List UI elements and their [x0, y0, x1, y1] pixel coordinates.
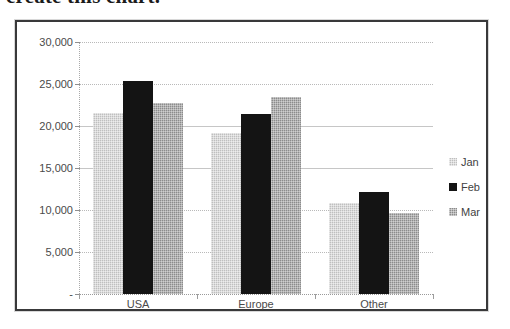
x-axis-label-europe: Europe — [238, 298, 273, 310]
x-axis-tick-mark — [433, 294, 434, 299]
bar-other-mar[interactable] — [389, 213, 419, 294]
y-axis-tick-label: 20,000 — [19, 120, 73, 132]
bar-other-jan[interactable] — [329, 203, 359, 294]
y-axis-tick-label: 30,000 — [19, 36, 73, 48]
bar-group-europe — [211, 42, 301, 294]
x-axis-category-labels: USAEuropeOther — [79, 298, 433, 320]
x-axis-label-usa: USA — [127, 298, 150, 310]
bar-usa-jan[interactable] — [93, 113, 123, 294]
bar-group-other — [329, 42, 419, 294]
plot-area — [79, 42, 433, 294]
clipped-caption-strip: create this chart. — [0, 0, 510, 14]
bar-group-usa — [93, 42, 183, 294]
x-axis-label-other: Other — [360, 298, 388, 310]
legend-item-jan[interactable]: Jan — [449, 149, 497, 174]
x-axis-tick-mark — [197, 294, 198, 299]
chart-frame: -5,00010,00015,00020,00025,00030,000 USA… — [15, 20, 488, 311]
legend-label: Jan — [461, 156, 479, 168]
y-axis-tick-labels: -5,00010,00015,00020,00025,00030,000 — [17, 42, 73, 294]
legend-swatch-icon-mar — [449, 208, 457, 216]
legend-item-mar[interactable]: Mar — [449, 199, 497, 224]
legend-item-feb[interactable]: Feb — [449, 174, 497, 199]
x-axis-tick-mark — [315, 294, 316, 299]
y-axis-tick-label: - — [19, 288, 73, 300]
bar-usa-mar[interactable] — [153, 103, 183, 294]
y-axis-tick-label: 5,000 — [19, 246, 73, 258]
bar-usa-feb[interactable] — [123, 81, 153, 294]
y-axis-tick-label: 15,000 — [19, 162, 73, 174]
bar-europe-jan[interactable] — [211, 133, 241, 294]
legend-swatch-icon-jan — [449, 158, 457, 166]
bar-other-feb[interactable] — [359, 192, 389, 294]
y-axis-tick-label: 25,000 — [19, 78, 73, 90]
caption-text: create this chart. — [6, 0, 160, 9]
gridline — [79, 294, 433, 295]
legend-label: Mar — [461, 206, 480, 218]
chart-legend: JanFebMar — [449, 149, 497, 224]
y-axis-tick-label: 10,000 — [19, 204, 73, 216]
bar-europe-feb[interactable] — [241, 114, 271, 294]
bar-series-layer — [79, 42, 433, 294]
legend-label: Feb — [461, 181, 480, 193]
x-axis-tick-mark — [79, 294, 80, 299]
bar-europe-mar[interactable] — [271, 97, 301, 294]
legend-swatch-icon-feb — [449, 183, 457, 191]
